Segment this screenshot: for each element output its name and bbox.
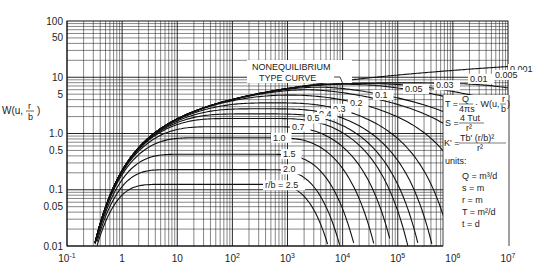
y-axis-label: W(u, r b ) <box>2 101 40 122</box>
svg-text:T =: T = <box>445 99 458 109</box>
y-tick-label: 100 <box>46 16 63 27</box>
x-tick-label: 106 <box>445 252 460 264</box>
curve-rb-2_5 <box>97 184 328 245</box>
x-tick-label: 104 <box>335 252 350 264</box>
svg-text:r: r <box>502 94 505 104</box>
svg-text:· W(u,: · W(u, <box>475 99 500 109</box>
svg-text:): ) <box>37 105 40 116</box>
curve-label: 0.03 <box>436 80 454 90</box>
curve-label: 0.1 <box>375 90 388 100</box>
y-tick-label: 0.01 <box>44 241 64 252</box>
svg-text:r = m: r = m <box>462 195 483 205</box>
svg-text:s = m: s = m <box>462 183 484 193</box>
svg-text:NONEQUILIBRIUM: NONEQUILIBRIUM <box>252 62 331 72</box>
curve-label: 2.0 <box>283 164 296 174</box>
svg-text:Tb' (r/b)²: Tb' (r/b)² <box>460 133 494 143</box>
x-tick-label: 105 <box>390 252 405 264</box>
x-tick-label: 103 <box>280 252 295 264</box>
svg-text:units:: units: <box>445 156 467 166</box>
x-axis-ticks: 10-1110102103104105106107 <box>58 252 515 264</box>
curve-label: 0.01 <box>470 74 488 84</box>
x-tick-label: 1 <box>119 253 125 264</box>
svg-text:b: b <box>501 104 506 114</box>
curve-label: 1.5 <box>283 149 296 159</box>
x-tick-label: 10 <box>172 253 184 264</box>
svg-text:r²: r² <box>466 123 472 133</box>
y-tick-label: 0.5 <box>49 145 63 156</box>
y-tick-label: 1.0 <box>49 128 63 139</box>
curve-label: 1.0 <box>273 133 286 143</box>
y-tick-label: 0.05 <box>44 201 64 212</box>
svg-text:W(u,: W(u, <box>2 105 23 116</box>
curve-label: 0.2 <box>350 98 363 108</box>
y-tick-label: 10 <box>52 72 64 83</box>
curve-rb-0_7 <box>95 127 390 244</box>
svg-text:Q = m³/d: Q = m³/d <box>462 171 497 181</box>
svg-text:4 Tut: 4 Tut <box>460 113 481 123</box>
svg-text:S =: S = <box>445 118 459 128</box>
y-axis-ticks: 100501051.00.50.10.050.01 <box>44 16 64 252</box>
svg-text:t = d: t = d <box>462 219 480 229</box>
type-curve-chart: 0.0010.0050.010.030.050.10.20.30.40.50.7… <box>0 0 548 277</box>
svg-text:T = m²/d: T = m²/d <box>462 207 496 217</box>
svg-text:TYPE CURVE: TYPE CURVE <box>259 73 316 83</box>
curve-label: 0.005 <box>495 70 518 80</box>
svg-text:b: b <box>28 112 33 122</box>
curve-label: 0.05 <box>405 84 423 94</box>
svg-text:K' =: K' = <box>444 138 459 148</box>
svg-text:r²: r² <box>477 143 483 153</box>
x-tick-label: 10-1 <box>58 252 75 264</box>
curve-label: r/b = 2.5 <box>265 180 298 190</box>
y-tick-label: 50 <box>52 32 64 43</box>
svg-text:Q: Q <box>462 94 469 104</box>
equations-panel: T = Q 4πs · W(u, r b ) S = 4 Tut r² K' =… <box>443 94 510 247</box>
nonequilibrium-annotation: NONEQUILIBRIUM TYPE CURVE <box>247 60 352 84</box>
curve-label: 0.7 <box>292 122 305 132</box>
y-tick-label: 5 <box>57 89 63 100</box>
y-tick-label: 0.1 <box>49 184 63 195</box>
svg-text:r: r <box>28 101 31 111</box>
x-tick-label: 102 <box>225 252 240 264</box>
svg-text:): ) <box>507 99 510 109</box>
x-tick-label: 107 <box>500 252 515 264</box>
